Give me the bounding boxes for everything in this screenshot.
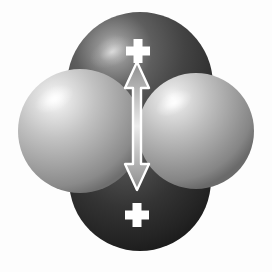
orbital-diagram-canvas [0,0,272,272]
orbital-diagram-figure: Orbital lobe diagram with vertical doubl… [0,0,272,272]
right-light-lobe [138,73,254,189]
left-light-lobe [18,69,142,193]
